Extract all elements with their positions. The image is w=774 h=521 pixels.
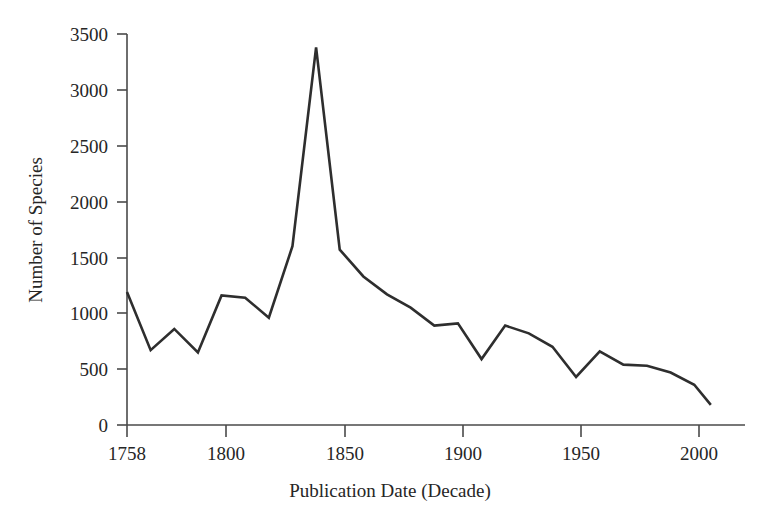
y-tick-label-1500: 1500 [70, 248, 108, 269]
chart-figure: 3500 3000 2500 2000 1500 1000 500 0 1758… [0, 0, 774, 521]
y-tick-label-3500: 3500 [70, 24, 108, 45]
x-tick-label-1850: 1850 [326, 443, 364, 464]
x-axis-title: Publication Date (Decade) [289, 480, 491, 502]
x-tick-label-1800: 1800 [207, 443, 245, 464]
x-tick-label-2000: 2000 [680, 443, 718, 464]
x-tick-label-1758: 1758 [108, 443, 146, 464]
y-axis-title: Number of Species [25, 157, 46, 303]
data-series-number-of-species [127, 47, 711, 404]
line-chart: 3500 3000 2500 2000 1500 1000 500 0 1758… [0, 0, 774, 521]
y-tick-label-3000: 3000 [70, 80, 108, 101]
x-tick-label-1950: 1950 [562, 443, 600, 464]
y-tick-label-0: 0 [99, 415, 109, 436]
y-tick-label-2500: 2500 [70, 136, 108, 157]
y-tick-label-1000: 1000 [70, 303, 108, 324]
x-axis-ticks [127, 425, 699, 437]
y-tick-label-2000: 2000 [70, 192, 108, 213]
x-tick-label-1900: 1900 [444, 443, 482, 464]
y-axis-ticks [117, 34, 127, 425]
y-tick-label-500: 500 [80, 359, 109, 380]
